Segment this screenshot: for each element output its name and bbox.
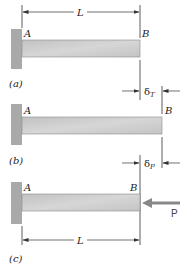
beam-b — [22, 117, 162, 134]
point-label-A-b: A — [23, 105, 31, 116]
point-label-B-a: B — [141, 28, 149, 39]
fixed-wall-b — [11, 104, 22, 145]
deltaP-label: δP — [144, 158, 155, 171]
fixed-wall-c — [11, 182, 22, 224]
point-label-B-b: B — [164, 105, 172, 116]
fixed-wall-a — [11, 29, 22, 69]
delta-P-dimension: δP — [122, 137, 180, 171]
point-label-B-c: B — [129, 182, 137, 193]
dimension-label-L-a: L — [76, 7, 84, 18]
force-label-P: P — [171, 208, 178, 219]
beam-a — [22, 40, 140, 57]
point-label-A-c: A — [23, 182, 31, 193]
caption-a: (a) — [9, 78, 23, 89]
panel-a: L A B (a) — [9, 5, 149, 89]
force-arrow-icon — [142, 198, 152, 208]
cantilever-thermal-diagram: L A B (a) δT A B (b) δP P — [0, 0, 187, 268]
panel-b: A B (b) — [9, 104, 172, 166]
deltaT-label: δT — [144, 86, 156, 99]
panel-c: P L A B (c) — [9, 155, 180, 264]
dimension-label-L-c: L — [76, 235, 84, 246]
caption-b: (b) — [9, 155, 23, 166]
point-label-A-a: A — [23, 28, 31, 39]
beam-c — [22, 194, 140, 211]
caption-c: (c) — [9, 253, 23, 264]
